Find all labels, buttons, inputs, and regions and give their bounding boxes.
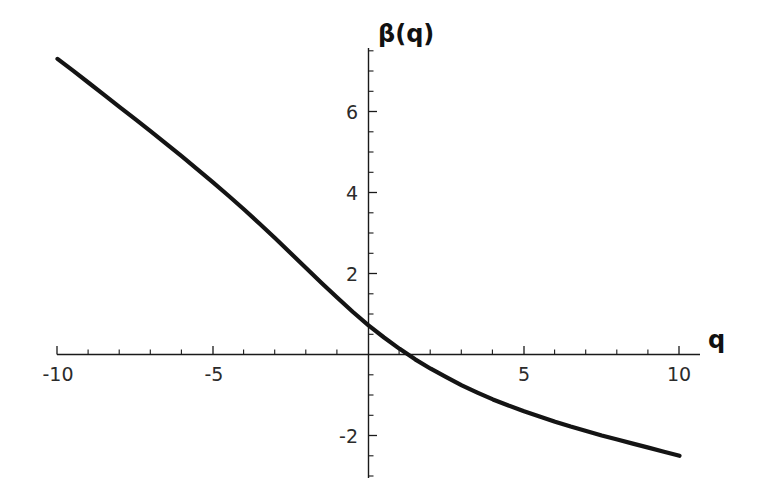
x-ticklabel-10: 10 <box>667 363 691 385</box>
beta-q-line-chart: -10 -5 5 10 2 4 6 -2 β(q) q <box>0 0 757 492</box>
y-ticklabel-2: 2 <box>346 263 358 285</box>
y-ticklabel--2: -2 <box>339 425 358 447</box>
y-axis-major-ticks <box>369 112 378 436</box>
chart-figure: -10 -5 5 10 2 4 6 -2 β(q) q <box>0 0 757 492</box>
y-axis-title: β(q) <box>378 20 434 48</box>
y-axis-minor-ticks <box>369 51 374 476</box>
x-axis-title: q <box>708 326 725 354</box>
x-ticklabel-5: 5 <box>518 363 530 385</box>
x-ticklabel--10: -10 <box>42 363 73 385</box>
x-ticklabel--5: -5 <box>205 363 224 385</box>
y-ticklabel-6: 6 <box>346 101 358 123</box>
y-ticklabel-4: 4 <box>346 182 358 204</box>
